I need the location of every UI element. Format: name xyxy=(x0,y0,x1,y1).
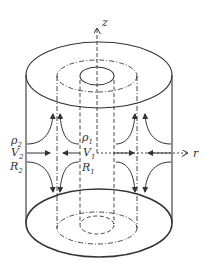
streamline-outer-right-down xyxy=(145,162,171,192)
outer-top-ellipse xyxy=(26,42,172,108)
coaxial-cylinder-diagram: z r ρ2 V2 R2 ρ1 V1 R1 xyxy=(0,0,211,271)
streamline-outer-right-up xyxy=(145,114,171,144)
inner-radius-label: R1 xyxy=(81,161,95,176)
z-axis-label: z xyxy=(101,16,108,29)
inner-bottom-ellipse xyxy=(80,216,114,234)
inner-hole-top xyxy=(80,67,114,85)
outer-radius-label: R2 xyxy=(9,160,23,175)
streamline-outer-left-up xyxy=(27,114,53,144)
streamline-inner-left-down xyxy=(60,162,79,192)
streamline-outer-left-down xyxy=(27,162,53,192)
interface-top-ellipse xyxy=(57,60,137,92)
r-axis-label: r xyxy=(193,147,199,160)
inner-density-label: ρ1 xyxy=(81,131,93,146)
streamline-inner-left-up xyxy=(60,114,79,144)
streamline-inner-right-up xyxy=(116,114,135,144)
inner-velocity-label: V1 xyxy=(83,146,95,161)
streamline-inner-right-down xyxy=(116,162,135,192)
outer-velocity-label: V2 xyxy=(11,146,24,161)
outer-cylinder xyxy=(26,42,172,257)
interface-bottom-ellipse xyxy=(57,212,137,244)
outer-bottom-ellipse xyxy=(26,189,172,257)
